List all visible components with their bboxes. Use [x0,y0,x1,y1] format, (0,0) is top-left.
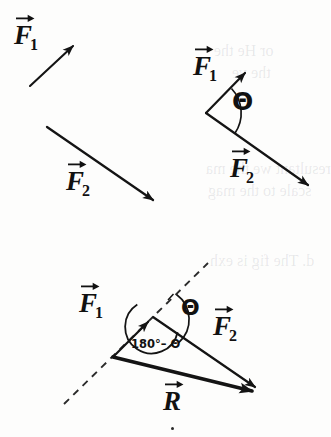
label-f2: F2 [213,313,239,340]
label-f2: F2 [66,168,92,195]
label-f1-subscript: 1 [95,305,103,321]
angle-label-theta: Θ [181,297,200,319]
vector-f2-shaft [47,127,153,200]
label-f1: F1 [79,290,105,317]
panel-angle-theta [206,73,308,185]
angle-label-theta: Θ [232,89,253,114]
label-f2-subscript: 2 [229,328,237,344]
vector-r-shaft [113,357,252,391]
label-f1: F1 [193,53,219,80]
label-f1-subscript: 1 [209,68,217,84]
vector-f2-shaft [206,113,308,185]
label-f2: F2 [230,155,256,182]
label-f2-subscript: 2 [246,170,254,186]
label-f2-subscript: 2 [82,183,90,199]
angle-label-180-minus-theta: 180°– Θ [131,339,180,351]
label-f1: F1 [14,22,40,49]
label-f1-subscript: 1 [30,37,38,53]
stray-ink-dot [171,427,174,430]
label-r: R [163,388,181,415]
label-r-base: R [163,388,181,415]
vector-f2-shaft [153,317,255,387]
